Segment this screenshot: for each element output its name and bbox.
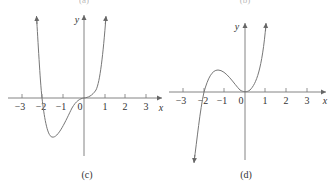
tick-label: 3 xyxy=(144,101,149,112)
y-axis-label: y xyxy=(74,14,80,25)
tick-label: −2 xyxy=(36,101,47,112)
arrow-icon xyxy=(194,155,195,163)
arrow-icon xyxy=(266,23,267,31)
graph-c: −3 −2 −1 0 1 2 3 x y (c) xyxy=(8,14,164,181)
curve-c xyxy=(37,17,107,137)
curve-d xyxy=(194,24,266,162)
tick-label: 3 xyxy=(305,95,310,106)
tick-label: 0 xyxy=(78,101,83,112)
arrow-icon xyxy=(37,16,38,24)
graph-d: −3 −2 −1 0 1 2 3 x y (d) xyxy=(169,21,328,181)
tick-label: −3 xyxy=(15,101,26,112)
x-axis-label: x xyxy=(322,95,328,106)
arrow-icon xyxy=(105,16,106,24)
tick-label: 2 xyxy=(284,95,289,106)
tick-label: 0 xyxy=(239,95,244,106)
tick-label: −3 xyxy=(176,95,187,106)
tick-label: 1 xyxy=(103,101,108,112)
x-axis-label: x xyxy=(158,102,164,113)
tick-label: 1 xyxy=(263,95,268,106)
figure: (a) (b) −3 −2 −1 0 1 2 3 x y xyxy=(0,0,331,187)
tick-label: 2 xyxy=(123,101,128,112)
caption-d: (d) xyxy=(240,169,252,181)
caption-b: (b) xyxy=(240,0,251,5)
y-axis-label: y xyxy=(234,21,240,32)
tick-label: −1 xyxy=(56,101,67,112)
caption-c: (c) xyxy=(81,169,92,181)
tick-label: −1 xyxy=(217,95,228,106)
caption-a: (a) xyxy=(79,0,89,5)
